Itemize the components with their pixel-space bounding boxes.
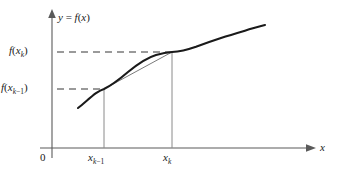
- y-axis-title-equals: =: [63, 11, 75, 23]
- y-tick-f-k-variable: x: [16, 44, 21, 56]
- origin-label: 0: [40, 152, 46, 163]
- y-tick-f-k-subscript: k: [21, 50, 24, 59]
- x-tick-label-x-k-minus-1: xk−1: [88, 152, 104, 163]
- x-tick-label-x-k: xk: [163, 152, 171, 163]
- figure-container: y = f(x) x 0 f(xk) f(xk−1) xk−1 xk: [0, 0, 346, 178]
- y-tick-label-f-of-x-k-minus-1: f(xk−1): [1, 82, 28, 93]
- figure-canvas: [0, 0, 346, 178]
- y-tick-f-km1-variable: x: [8, 81, 13, 93]
- x-axis-title: x: [320, 142, 325, 153]
- y-tick-f-k-close-paren: ): [24, 44, 28, 56]
- x-tick-k-subscript: k: [168, 157, 171, 166]
- x-axis-arrowhead: [306, 144, 316, 152]
- y-axis-arrowhead: [48, 9, 56, 18]
- y-tick-f-km1-close-paren: ): [24, 81, 28, 93]
- x-tick-km1-subscript-minus: −1: [96, 157, 104, 166]
- y-tick-label-f-of-x-k: f(xk): [9, 45, 28, 56]
- y-tick-f-km1-subscript-minus: −1: [16, 87, 24, 96]
- y-axis-title: y = f(x): [58, 12, 90, 23]
- y-axis-title-close-paren: ): [86, 11, 90, 23]
